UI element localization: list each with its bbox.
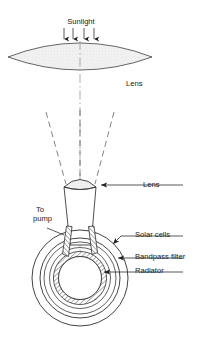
figure-container: Sunlight Lens: [0, 0, 200, 339]
ray-left: [46, 112, 66, 184]
callout-bandpass-filter: Bandpass filter: [118, 252, 186, 261]
sunlight-arrows-group: [64, 28, 94, 39]
solar-pumped-laser-diagram: Sunlight Lens: [0, 0, 200, 339]
solar-cells-label: Solar cells: [135, 230, 170, 239]
feed-tube-right: [89, 226, 98, 255]
bandpass-filter-label: Bandpass filter: [135, 252, 186, 261]
solar-cells-leader-d: [113, 236, 121, 244]
to-pump-label-line2: pump: [33, 214, 52, 223]
radiator-label: Radiator: [135, 266, 164, 275]
lens-bottom-label: Lens: [143, 180, 160, 189]
lens-top-label: Lens: [126, 79, 143, 88]
to-pump-leader: [47, 228, 64, 235]
ray-right: [95, 112, 114, 184]
to-pump-label-line1: To: [36, 205, 44, 214]
laser-cavity-inner-circle: [59, 257, 102, 300]
sunlight-label: Sunlight: [67, 17, 95, 26]
callout-solar-cells: Solar cells: [113, 230, 183, 244]
feed-tube-left: [63, 226, 73, 257]
